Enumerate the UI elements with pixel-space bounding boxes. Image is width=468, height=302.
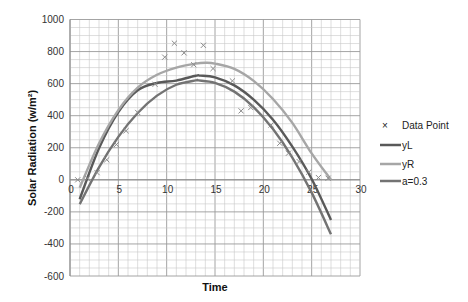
legend-item-yr: yR [380,159,414,170]
y-tick-label: 200 [47,142,64,153]
x-axis-ticks: 051015202530 [68,184,367,195]
y-axis-title: Solar Radiation (w/m²) [26,90,38,206]
y-tick-label: 0 [58,174,64,185]
legend-label: a=0.3 [402,176,428,187]
x-tick-label: 10 [162,184,174,195]
legend-item-data-point: × Data Point [382,120,449,131]
x-tick-label: 5 [117,184,123,195]
y-tick-label: 600 [47,78,64,89]
x-axis-title: Time [202,281,227,293]
y-axis-ticks: 10008006004002000-200-400-600 [42,14,65,282]
y-tick-label: -600 [44,271,64,282]
legend: × Data Point yL yR a=0.3 [380,120,449,187]
y-tick-label: 400 [47,110,64,121]
y-tick-label: 800 [47,46,64,57]
x-marker-icon [277,141,282,146]
legend-label: yR [402,159,414,170]
x-tick-label: 30 [355,184,367,195]
x-tick-label: 0 [68,184,74,195]
x-marker-icon: × [382,120,388,131]
legend-item-a03: a=0.3 [380,176,428,187]
x-marker-icon [239,108,244,113]
y-tick-label: 1000 [42,14,65,25]
solar-radiation-chart: 10008006004002000-200-400-600 0510152025… [0,0,468,302]
legend-item-yl: yL [380,140,413,151]
x-tick-label: 20 [259,184,271,195]
y-tick-label: -400 [44,238,64,249]
x-tick-label: 15 [210,184,222,195]
legend-label: yL [402,140,413,151]
plot-grid [70,20,360,277]
legend-label: Data Point [402,120,449,131]
y-tick-label: -200 [44,206,64,217]
